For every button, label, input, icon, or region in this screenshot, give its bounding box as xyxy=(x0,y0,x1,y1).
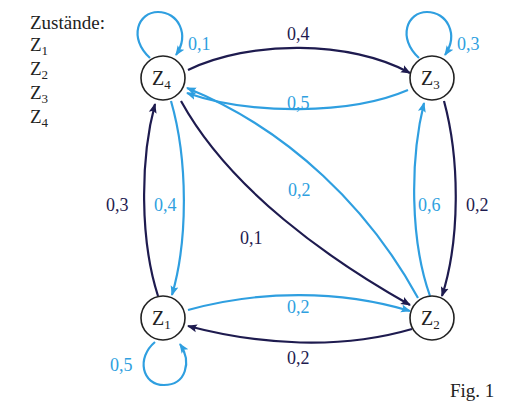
state-transition-diagram: Z4 Z3 Z1 Z2 0,1 0,3 0,5 0,4 0,5 0,3 0,4 … xyxy=(0,0,516,409)
edge-z2-z1 xyxy=(188,326,412,343)
label-z2-z3: 0,6 xyxy=(418,195,441,215)
label-z4-z3: 0,4 xyxy=(287,24,310,44)
edge-z4-z2 xyxy=(181,101,410,305)
edge-z3-z3 xyxy=(407,12,452,58)
node-z4: Z4 xyxy=(141,56,185,100)
node-label-base: Z xyxy=(421,67,433,89)
node-label-sub: 4 xyxy=(164,77,171,92)
edge-z4-z4 xyxy=(138,12,183,58)
label-z2-z4: 0,2 xyxy=(288,180,311,200)
label-z3-z3: 0,3 xyxy=(457,34,480,54)
label-z1-z2: 0,2 xyxy=(287,297,310,317)
label-z4-z4: 0,1 xyxy=(188,34,211,54)
label-z3-z2: 0,2 xyxy=(466,195,489,215)
label-z4-z1: 0,4 xyxy=(154,195,177,215)
node-z1: Z1 xyxy=(141,296,185,340)
label-z4-z2: 0,1 xyxy=(240,228,263,248)
node-label-base: Z xyxy=(152,67,164,89)
edge-z3-z2 xyxy=(442,101,456,296)
label-z3-z4: 0,5 xyxy=(287,93,310,113)
edge-z4-z3 xyxy=(188,48,410,73)
figure-caption: Fig. 1 xyxy=(450,380,494,402)
edge-z1-z1 xyxy=(144,342,186,385)
node-label-base: Z xyxy=(421,307,433,329)
node-label-sub: 3 xyxy=(433,77,440,92)
node-z2: Z2 xyxy=(410,296,454,340)
node-label-sub: 2 xyxy=(433,317,440,332)
node-label-sub: 1 xyxy=(164,317,171,332)
node-z3: Z3 xyxy=(410,56,454,100)
label-z1-z1: 0,5 xyxy=(110,355,133,375)
label-z1-z4: 0,3 xyxy=(106,195,129,215)
label-z2-z1: 0,2 xyxy=(287,348,310,368)
node-label-base: Z xyxy=(152,307,164,329)
